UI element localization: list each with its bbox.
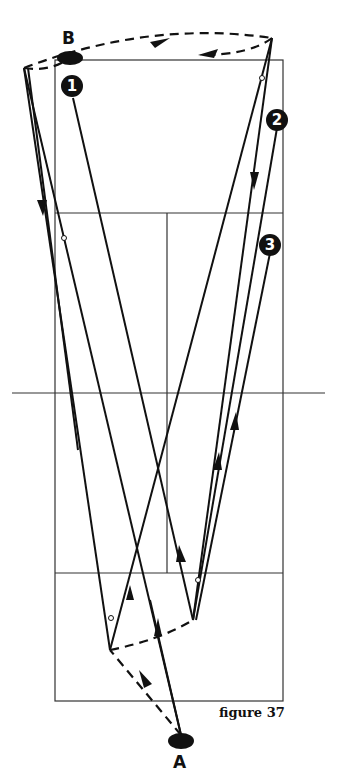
- player-b-marker: [57, 51, 83, 65]
- marker-2: 2: [266, 109, 288, 131]
- arrow-top-left: [198, 49, 218, 58]
- contact-point-top-right: [260, 76, 265, 81]
- figure-caption: figure 37: [219, 705, 285, 720]
- line-3-to-right-bottom: [196, 253, 270, 620]
- marker-1: 1: [61, 75, 83, 97]
- marker-3: 3: [259, 234, 281, 256]
- contact-points: [62, 76, 265, 621]
- solid-trajectories: [24, 38, 277, 735]
- contact-point-bottom-right: [196, 578, 201, 583]
- court-boundary: [55, 60, 283, 701]
- line-tr-to-left-bottom: [110, 38, 272, 650]
- dashed-arc-bottom: [110, 620, 193, 650]
- contact-point-bottom-left: [109, 616, 114, 621]
- player-b-label: B: [62, 28, 75, 48]
- arrow-bottom-dashed: [139, 670, 152, 688]
- dashed-trajectories: [24, 33, 272, 735]
- contact-point-left: [62, 236, 67, 241]
- player-a-marker: [168, 733, 194, 749]
- line-2-to-right-bottom: [193, 128, 277, 620]
- line-1-to-right-bottom: [73, 98, 193, 620]
- line-a-up: [150, 600, 181, 735]
- court-lines: [12, 60, 325, 701]
- player-a-label: A: [173, 752, 186, 772]
- line-tr-to-right-bottom: [193, 38, 272, 620]
- arrow-top-right: [150, 38, 170, 48]
